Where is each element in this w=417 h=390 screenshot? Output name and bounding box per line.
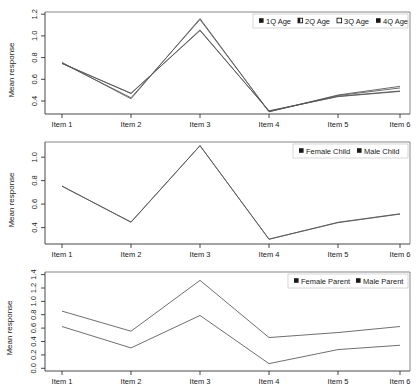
p3-x-tick-label: Item 2 — [121, 377, 142, 386]
p3-y-tick-label: 1.0 — [29, 296, 38, 306]
p1-x-tick-label: Item 4 — [259, 120, 280, 129]
series-line — [62, 19, 400, 112]
series-line — [62, 31, 400, 111]
p3-legend-label: Male Parent — [363, 277, 404, 286]
series-line — [62, 30, 400, 111]
p2-y-tick-label: 0.8 — [30, 175, 39, 185]
p1-legend-marker-half-fill — [298, 18, 300, 23]
p1-legend-marker-filled-square — [259, 18, 264, 23]
p3-y-tick-label: 0.0 — [29, 363, 38, 373]
p1-y-tick-label: 0.8 — [30, 52, 39, 62]
p1-series-lines — [62, 19, 400, 112]
p2-y-ticks: 0.4 0.6 0.8 1.0 — [30, 152, 45, 233]
p3-x-tick-label: Item 5 — [328, 377, 349, 386]
p3-legend: Female Parent Male Parent — [288, 274, 408, 288]
series-line — [62, 315, 400, 363]
p3-y-tick-label: 1.4 — [29, 269, 38, 279]
panel-parent-gender: Mean response 0.0 0.2 0.4 0.6 0.8 1. — [0, 260, 417, 390]
p3-y-tick-label: 0.8 — [29, 309, 38, 319]
p3-y-axis-title: Mean response — [5, 300, 14, 356]
panel-age-quartiles: Mean response 0.4 0.6 0.8 1.0 1.2 — [0, 0, 417, 130]
p1-x-tick-label: Item 5 — [328, 120, 349, 129]
p1-legend-label: 3Q Age — [344, 17, 369, 26]
p2-x-ticks: Item 1 Item 2 Item 3 Item 4 Item 5 Item … — [52, 244, 411, 259]
multi-panel-line-chart-figure: Mean response 0.4 0.6 0.8 1.0 1.2 — [0, 0, 417, 390]
p1-x-tick-label: Item 6 — [390, 120, 411, 129]
p2-legend-marker-filled-square — [299, 148, 304, 153]
p3-series-lines — [62, 280, 400, 363]
p1-x-tick-label: Item 1 — [52, 120, 73, 129]
panel-child-gender: Mean response 0.4 0.6 0.8 1.0 — [0, 130, 417, 260]
p3-x-tick-label: Item 6 — [390, 377, 411, 386]
p1-y-axis-title: Mean response — [7, 42, 16, 98]
p3-x-tick-label: Item 4 — [259, 377, 280, 386]
p2-y-tick-label: 0.4 — [30, 222, 39, 232]
series-line — [62, 146, 400, 239]
p1-legend-marker-filled-square — [376, 18, 381, 23]
p3-y-tick-label: 1.2 — [29, 283, 38, 293]
p3-y-tick-label: 0.2 — [29, 350, 38, 360]
panel-1-canvas: Mean response 0.4 0.6 0.8 1.0 1.2 — [0, 0, 417, 130]
p1-legend-label: 1Q Age — [266, 17, 291, 26]
p1-y-ticks: 0.4 0.6 0.8 1.0 1.2 — [30, 9, 45, 106]
p3-legend-label: Female Parent — [301, 277, 351, 286]
p3-x-ticks: Item 1 Item 2 Item 3 Item 4 Item 5 Item … — [52, 371, 411, 386]
p3-x-tick-label: Item 1 — [52, 377, 73, 386]
p2-legend-marker-filled-square — [357, 148, 362, 153]
p1-legend-label: 4Q Age — [383, 17, 408, 26]
p2-x-tick-label: Item 3 — [190, 250, 211, 259]
p3-legend-marker-filled-square — [294, 278, 299, 283]
panel-3-canvas: Mean response 0.0 0.2 0.4 0.6 0.8 1. — [0, 260, 417, 390]
p2-y-tick-label: 0.6 — [30, 199, 39, 209]
p2-x-tick-label: Item 1 — [52, 250, 73, 259]
p1-legend-label: 2Q Age — [305, 17, 330, 26]
p1-x-ticks: Item 1 Item 2 Item 3 Item 4 Item 5 Item … — [52, 114, 411, 129]
p2-series-lines — [62, 146, 400, 240]
series-line — [62, 146, 400, 240]
p3-x-tick-label: Item 3 — [190, 377, 211, 386]
p1-x-tick-label: Item 3 — [190, 120, 211, 129]
p2-x-tick-label: Item 4 — [259, 250, 280, 259]
p2-legend: Female Child Male Child — [293, 144, 408, 158]
panel-2-canvas: Mean response 0.4 0.6 0.8 1.0 — [0, 130, 417, 260]
p1-legend: 1Q Age 2Q Age 3Q Age 4Q Age — [253, 14, 408, 28]
p1-y-tick-label: 0.4 — [30, 96, 39, 106]
p1-x-tick-label: Item 2 — [121, 120, 142, 129]
p3-y-tick-label: 0.4 — [29, 336, 38, 346]
p1-y-tick-label: 1.2 — [30, 9, 39, 19]
p1-y-tick-label: 0.6 — [30, 74, 39, 84]
p2-y-axis-title: Mean response — [7, 172, 16, 228]
p2-y-tick-label: 1.0 — [30, 152, 39, 162]
p3-y-tick-label: 0.6 — [29, 323, 38, 333]
p2-x-tick-label: Item 5 — [328, 250, 349, 259]
p1-y-tick-label: 1.0 — [30, 31, 39, 41]
series-line — [62, 20, 400, 112]
p2-legend-label: Female Child — [306, 147, 350, 156]
p2-legend-label: Male Child — [364, 147, 399, 156]
p2-x-tick-label: Item 6 — [390, 250, 411, 259]
p3-y-ticks: 0.0 0.2 0.4 0.6 0.8 1.0 1.2 1.4 — [29, 269, 45, 373]
p2-x-tick-label: Item 2 — [121, 250, 142, 259]
p3-legend-marker-filled-square — [356, 278, 361, 283]
p1-legend-marker-open-square — [337, 18, 342, 23]
series-line — [62, 280, 400, 337]
